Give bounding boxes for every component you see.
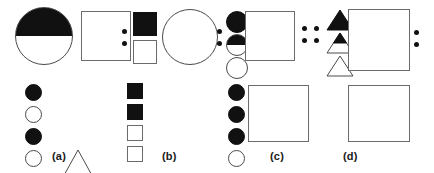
panel-a-top-half-circle <box>15 7 73 65</box>
dot-icon <box>217 29 222 34</box>
panel-c-top-empty-square <box>245 11 295 61</box>
empty-square-icon <box>127 125 143 141</box>
dot-icon <box>122 29 127 34</box>
dot-column <box>302 26 307 43</box>
filled-square-icon <box>127 104 143 120</box>
dot-icon <box>314 38 319 43</box>
filled-circle-icon <box>228 128 245 145</box>
empty-square-icon <box>348 85 410 142</box>
dot-icon <box>414 30 419 35</box>
dot-column <box>314 26 319 43</box>
empty-circle-icon <box>25 106 42 123</box>
figure-canvas: (a) (b) (c) (d) <box>0 0 434 173</box>
empty-circle-icon <box>25 150 42 167</box>
caption-panel-c: (c) <box>270 150 284 162</box>
dot-icon <box>414 42 419 47</box>
panel-b-bottom-square-stack <box>127 83 143 162</box>
panel-d-bottom-empty-square <box>348 85 410 142</box>
panel-c-bottom-empty-square <box>248 85 309 142</box>
empty-square-icon <box>127 146 143 162</box>
dot-icon <box>122 41 127 46</box>
dot-icon <box>302 38 307 43</box>
empty-circle-icon <box>162 9 218 65</box>
dot-icon <box>217 41 222 46</box>
separator-dots-b-top <box>122 26 127 48</box>
filled-circle-icon <box>25 128 42 145</box>
half-filled-circle-icon <box>15 7 73 65</box>
empty-square-icon <box>348 9 410 71</box>
dot-icon <box>302 26 307 31</box>
filled-square-icon <box>133 12 157 36</box>
caption-panel-a: (a) <box>52 150 66 162</box>
empty-circle-icon <box>228 150 245 167</box>
empty-square-icon <box>248 85 309 142</box>
caption-panel-b: (b) <box>162 150 177 162</box>
separator-dots-c-top <box>217 26 222 48</box>
caption-panel-d: (d) <box>343 150 358 162</box>
panel-a-bottom-circle-stack <box>25 84 42 167</box>
empty-square-icon <box>133 40 157 64</box>
filled-circle-icon <box>228 106 245 123</box>
panel-b-top-empty-circle <box>162 9 218 65</box>
panel-c-bottom-circle-stack <box>228 84 245 167</box>
panel-d-top-empty-square <box>348 9 410 71</box>
filled-circle-icon <box>228 84 245 101</box>
filled-square-icon <box>127 83 143 99</box>
dot-icon <box>314 26 319 31</box>
separator-dots-d-top <box>302 26 319 43</box>
filled-circle-icon <box>25 84 42 101</box>
separator-dots-trailing <box>414 27 419 49</box>
empty-square-icon <box>245 11 295 61</box>
panel-b-top-square-stack <box>133 12 157 64</box>
